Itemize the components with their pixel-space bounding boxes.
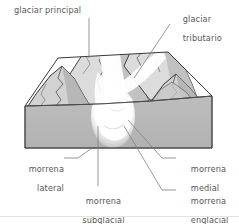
- footer-divider: [0, 216, 239, 217]
- glacier-block-diagram: glaciar principal glaciar tributario mor…: [0, 0, 239, 224]
- label-morrena-englacial-line1: morrena: [191, 196, 226, 206]
- leader-morrena-lateral-diag: [78, 148, 92, 158]
- label-glaciar-tributario-line1: glaciar: [183, 14, 211, 24]
- label-morrena-subglacial: morrena subglacial: [52, 188, 144, 224]
- label-morrena-medial-line1: morrena: [191, 164, 226, 174]
- label-glaciar-tributario-line2: tributario: [183, 33, 222, 43]
- label-morrena-lateral-line1: morrena: [29, 164, 64, 174]
- label-glaciar-tributario: glaciar tributario: [172, 6, 222, 53]
- label-morrena-subglacial-line1: morrena: [86, 196, 121, 206]
- label-morrena-englacial: morrena englacial: [180, 188, 229, 224]
- label-glaciar-principal: glaciar principal: [14, 6, 81, 15]
